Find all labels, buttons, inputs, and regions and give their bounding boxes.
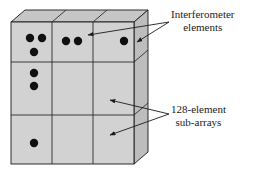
interferometer-element-dot xyxy=(62,37,70,45)
interferometer-label-line-1: Interferometer xyxy=(171,8,235,21)
interferometer-element-dot xyxy=(26,34,34,42)
interferometer-element-dot xyxy=(30,48,38,56)
subarrays-label-line-2: sub-arrays xyxy=(171,116,226,129)
figure-container: Interferometer elements 128-element sub-… xyxy=(0,0,253,173)
interferometer-element-dot xyxy=(30,69,38,77)
interferometer-element-dot xyxy=(74,37,82,45)
interferometer-label-line-2: elements xyxy=(171,21,235,34)
sub-arrays-label: 128-element sub-arrays xyxy=(171,103,226,129)
interferometer-element-dot xyxy=(30,139,38,147)
slab-top-face xyxy=(11,10,148,22)
subarrays-label-line-1: 128-element xyxy=(171,103,226,116)
interferometer-elements-label: Interferometer elements xyxy=(171,8,235,34)
interferometer-element-dot xyxy=(38,34,46,42)
interferometer-element-dot xyxy=(120,37,128,45)
interferometer-element-dot xyxy=(30,82,38,90)
slab-front-face xyxy=(11,22,134,164)
slab-right-face xyxy=(134,10,148,164)
